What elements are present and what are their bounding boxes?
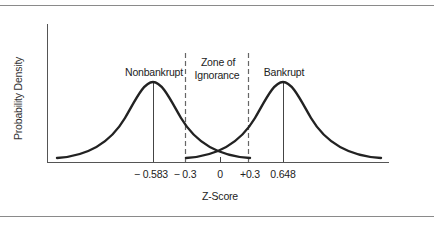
tick-label-neg03: − 0.3 [170, 168, 200, 180]
zone-label-line1: Zone of [192, 56, 244, 68]
bankrupt-label: Bankrupt [258, 66, 310, 78]
tick-label-pos03: +0.3 [235, 168, 265, 180]
x-axis-label: Z-Score [195, 190, 245, 202]
tick-label-0: 0 [210, 168, 230, 180]
zone-label-line2: Ignorance [186, 69, 248, 81]
tick-label-0648: 0.648 [266, 168, 300, 180]
nonbankrupt-label: Nonbankrupt [123, 66, 185, 78]
y-axis-label: Probability Density [12, 57, 24, 140]
tick-label-neg0583: − 0.583 [126, 168, 176, 180]
